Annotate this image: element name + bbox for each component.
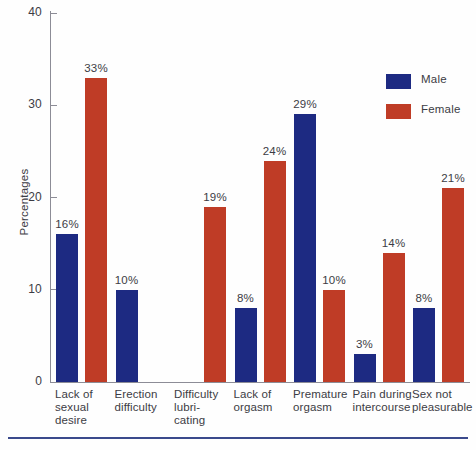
category-label-5: Pain during intercourse	[353, 388, 417, 414]
bar-value-label: 14%	[377, 237, 411, 249]
bar-female-4	[323, 290, 345, 382]
bar-male-4	[294, 114, 316, 382]
bar-male-0	[56, 234, 78, 382]
category-label-2: Difficulty lubri- cating	[174, 388, 238, 428]
legend-swatch-female-icon	[386, 104, 411, 119]
bottom-divider-rule	[8, 437, 468, 439]
bar-value-label: 29%	[288, 98, 322, 110]
bar-value-label: 10%	[317, 274, 351, 286]
category-label-4: Premature orgasm	[293, 388, 357, 414]
legend-swatch-male-icon	[386, 74, 411, 89]
bar-female-3	[264, 161, 286, 382]
bar-male-1	[116, 290, 138, 382]
bar-value-label: 21%	[436, 172, 470, 184]
category-label-1: Erection difficulty	[115, 388, 179, 414]
y-tick-label: 30	[16, 97, 42, 111]
bar-value-label: 33%	[79, 62, 113, 74]
bar-value-label: 16%	[50, 218, 84, 230]
bar-value-label: 24%	[258, 145, 292, 157]
y-tick-label: 40	[16, 5, 42, 19]
legend-label-female: Female	[421, 103, 461, 115]
bar-male-6	[413, 308, 435, 382]
bar-female-0	[85, 78, 107, 382]
category-label-6: Sex not pleasurable	[412, 388, 476, 414]
bar-female-6	[442, 188, 464, 382]
bar-chart-figure: Percentages 010203040 16%33%10%19%8%24%2…	[0, 0, 476, 450]
bar-male-5	[354, 354, 376, 382]
bar-value-label: 3%	[348, 338, 382, 350]
y-tick-label: 0	[16, 374, 42, 388]
plot-area: 16%33%10%19%8%24%29%10%3%14%8%21%	[50, 13, 470, 382]
bar-female-2	[204, 207, 226, 382]
x-axis-line	[50, 382, 470, 383]
bar-male-3	[235, 308, 257, 382]
bar-value-label: 10%	[110, 274, 144, 286]
category-label-0: Lack of sexual desire	[55, 388, 119, 428]
bar-value-label: 8%	[407, 292, 441, 304]
y-tick-label: 10	[16, 282, 42, 296]
y-tick-label: 20	[16, 190, 42, 204]
bar-female-5	[383, 253, 405, 382]
legend-label-male: Male	[421, 73, 447, 85]
category-label-3: Lack of orgasm	[234, 388, 298, 414]
bar-value-label: 19%	[198, 191, 232, 203]
bar-value-label: 8%	[229, 292, 263, 304]
